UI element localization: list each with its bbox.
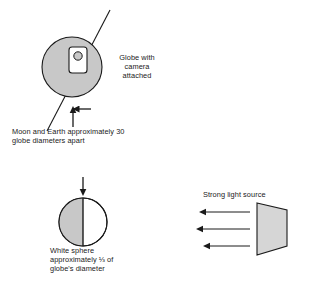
sphere-pointer-arrow-group bbox=[80, 177, 87, 196]
light-ray-3 bbox=[203, 243, 250, 249]
label-globe-with-camera: Globe with camera attached bbox=[100, 53, 174, 81]
white-sphere-group bbox=[59, 177, 107, 246]
label-moon-earth-distance: Moon and Earth approximately 30 globe di… bbox=[12, 127, 187, 145]
label-white-sphere: White sphere approximately ⅓ of globe's … bbox=[50, 246, 160, 274]
light-source-group bbox=[196, 203, 287, 255]
light-ray-1 bbox=[199, 209, 250, 215]
camera-lens-icon bbox=[74, 52, 82, 60]
diagram-canvas: Globe with camera attached Moon and Eart… bbox=[0, 0, 310, 284]
light-ray-2 bbox=[196, 226, 250, 232]
light-source-lamp bbox=[257, 203, 287, 255]
label-strong-light-source: Strong light source bbox=[203, 190, 303, 199]
